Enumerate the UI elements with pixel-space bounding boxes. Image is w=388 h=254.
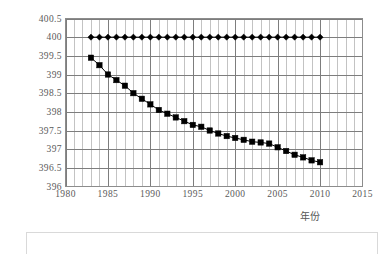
data-point-diamond [198, 34, 204, 40]
data-point-diamond [207, 34, 213, 40]
data-point-square [97, 62, 102, 67]
data-point-diamond [215, 34, 221, 40]
data-point-square [165, 111, 170, 116]
data-point-square [114, 77, 119, 82]
data-point-diamond [258, 34, 264, 40]
data-point-square [131, 90, 136, 95]
data-point-square [283, 148, 288, 153]
data-point-square [292, 152, 297, 157]
data-point-square [309, 158, 314, 163]
data-point-diamond [122, 34, 128, 40]
data-point-diamond [300, 34, 306, 40]
data-point-diamond [181, 34, 187, 40]
footer-box [26, 232, 378, 254]
data-point-diamond [173, 34, 179, 40]
data-point-square [224, 133, 229, 138]
data-series-layer [88, 34, 323, 165]
data-point-diamond [317, 34, 323, 40]
data-point-square [190, 122, 195, 127]
data-point-square [182, 118, 187, 123]
data-point-diamond [139, 34, 145, 40]
data-point-square [317, 160, 322, 165]
data-point-diamond [241, 34, 247, 40]
data-point-diamond [292, 34, 298, 40]
data-point-diamond [130, 34, 136, 40]
data-point-square [156, 107, 161, 112]
data-point-square [199, 124, 204, 129]
data-point-square [241, 137, 246, 142]
data-point-diamond [308, 34, 314, 40]
data-point-square [207, 128, 212, 133]
data-point-diamond [232, 34, 238, 40]
data-point-square [249, 139, 254, 144]
data-point-square [275, 145, 280, 150]
data-point-diamond [190, 34, 196, 40]
data-point-square [258, 140, 263, 145]
data-point-square [173, 115, 178, 120]
data-point-square [216, 131, 221, 136]
data-point-square [105, 72, 110, 77]
data-point-square [122, 83, 127, 88]
data-point-diamond [164, 34, 170, 40]
data-point-square [300, 155, 305, 160]
data-point-diamond [105, 34, 111, 40]
data-point-square [88, 55, 93, 60]
data-point-diamond [266, 34, 272, 40]
data-point-square [233, 135, 238, 140]
data-point-diamond [156, 34, 162, 40]
data-point-diamond [113, 34, 119, 40]
data-point-diamond [249, 34, 255, 40]
data-point-diamond [147, 34, 153, 40]
data-point-square [266, 141, 271, 146]
x-tick-label: 2015 [338, 189, 388, 199]
data-point-diamond [88, 34, 94, 40]
data-point-diamond [283, 34, 289, 40]
data-point-diamond [96, 34, 102, 40]
data-point-square [148, 102, 153, 107]
data-point-diamond [275, 34, 281, 40]
data-point-diamond [224, 34, 230, 40]
data-point-square [139, 96, 144, 101]
